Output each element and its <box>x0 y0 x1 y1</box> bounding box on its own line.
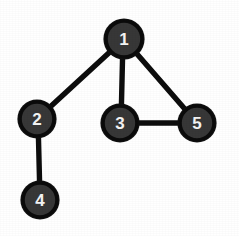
graph-node-3[interactable]: 3 <box>100 103 139 142</box>
graph-node-4[interactable]: 4 <box>20 180 59 219</box>
node-label-3: 3 <box>115 114 124 133</box>
node-layer: 12345 <box>17 18 216 219</box>
graph-node-2[interactable]: 2 <box>17 99 56 138</box>
graph-canvas: 12345 <box>0 0 239 236</box>
node-label-4: 4 <box>35 191 45 210</box>
graph-figure: 12345 <box>0 0 239 236</box>
node-label-2: 2 <box>32 110 41 129</box>
node-label-5: 5 <box>192 114 201 133</box>
node-label-1: 1 <box>119 30 128 49</box>
graph-node-1[interactable]: 1 <box>103 18 144 59</box>
graph-node-5[interactable]: 5 <box>177 103 216 142</box>
